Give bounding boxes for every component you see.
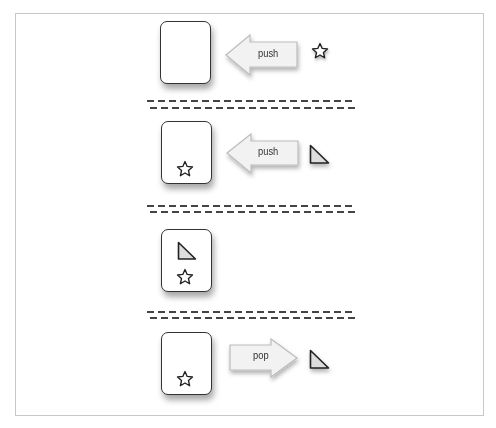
separator-dashed-line bbox=[150, 317, 356, 319]
separator-dashed-line bbox=[150, 107, 356, 109]
triangle-icon bbox=[309, 349, 331, 371]
star-icon bbox=[176, 370, 194, 388]
separator-dashed-line bbox=[147, 205, 353, 207]
star-icon bbox=[311, 42, 329, 60]
triangle-icon bbox=[309, 144, 331, 166]
triangle-icon bbox=[177, 241, 199, 263]
pop-label: pop bbox=[253, 349, 269, 361]
separator-dashed-line bbox=[150, 211, 356, 213]
stack-container bbox=[161, 121, 212, 184]
separator-dashed-line bbox=[147, 311, 353, 313]
star-icon bbox=[176, 268, 194, 286]
stack-container bbox=[161, 229, 212, 292]
push-label: push bbox=[258, 145, 278, 157]
stack-container-empty bbox=[160, 21, 211, 84]
stack-container bbox=[161, 332, 212, 395]
separator-dashed-line bbox=[147, 100, 353, 102]
star-icon bbox=[176, 160, 194, 178]
push-label: push bbox=[258, 47, 278, 59]
